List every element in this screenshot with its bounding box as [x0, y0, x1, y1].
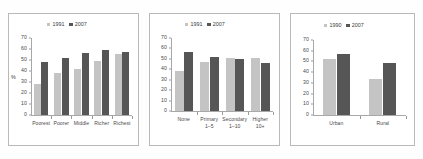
- bar: [226, 58, 235, 111]
- x-label-line1: Middle: [74, 120, 89, 126]
- legend-item: 1990: [324, 23, 341, 28]
- y-axis-tick-label: 60: [9, 46, 27, 51]
- y-axis-tick-mark: [29, 104, 32, 105]
- y-axis-title: %: [11, 75, 16, 80]
- bar: [251, 58, 260, 111]
- x-label-line1: Richer: [94, 120, 109, 126]
- y-axis-tick-mark: [311, 115, 314, 116]
- y-axis-tick-label: 70: [150, 35, 167, 40]
- bar: [74, 69, 81, 115]
- legend-item: 1991: [47, 22, 64, 27]
- y-axis-tick-mark: [311, 93, 314, 94]
- bar: [175, 71, 184, 111]
- y-axis-tick-label: 10: [9, 101, 27, 106]
- y-axis-tick-label: 50: [150, 56, 167, 61]
- y-axis-tick-mark: [169, 58, 172, 59]
- bar: [94, 61, 101, 115]
- y-axis-tick-label: 30: [150, 77, 167, 82]
- y-axis-line: [171, 38, 172, 112]
- x-axis-tick-mark: [222, 112, 223, 115]
- y-axis-tick-mark: [311, 61, 314, 62]
- x-label-line1: None: [178, 116, 190, 122]
- x-axis-tick-mark: [197, 112, 198, 115]
- bar: [115, 54, 122, 115]
- legend-swatch-icon: [185, 23, 188, 26]
- bar: [34, 84, 41, 115]
- legend-label: 1991: [52, 22, 64, 27]
- y-axis-tick-label: 40: [291, 70, 309, 75]
- y-axis-tick-mark: [311, 82, 314, 83]
- bar: [235, 59, 244, 111]
- y-axis-tick-label: 70: [291, 37, 309, 42]
- y-axis-tick-mark: [29, 49, 32, 50]
- bar: [62, 58, 69, 115]
- x-axis-tick-label: Secondary1–10: [222, 116, 248, 131]
- legend-item: 1991: [185, 22, 202, 27]
- legend-item: 2007: [207, 22, 224, 27]
- x-label-line2: 10+: [248, 123, 274, 130]
- bar: [200, 62, 209, 111]
- chart-panel-residence: 01020304050607019902007UrbanRural: [290, 13, 415, 146]
- bar: [184, 52, 193, 111]
- y-axis-tick-mark: [169, 79, 172, 80]
- y-axis-tick-label: 40: [150, 67, 167, 72]
- plot-area-1: 010203040506070%19912007PoorestPoorerMid…: [9, 14, 138, 145]
- x-label-line1: Poorer: [53, 120, 69, 126]
- legend-label: 1990: [329, 23, 341, 28]
- x-axis-tick-mark: [273, 112, 274, 115]
- bar: [261, 63, 270, 111]
- chart-panel-wealth: 010203040506070%19912007PoorestPoorerMid…: [8, 13, 139, 146]
- x-axis-tick-mark: [406, 116, 407, 119]
- bar: [337, 54, 350, 115]
- legend-item: 2007: [346, 23, 363, 28]
- x-label-line2: 1–5: [197, 123, 223, 130]
- x-axis-tick-label: Urban: [313, 120, 360, 127]
- plot-area-3: 01020304050607019902007UrbanRural: [291, 14, 414, 145]
- y-axis-tick-label: 0: [9, 112, 27, 117]
- y-axis-tick-label: 10: [150, 98, 167, 103]
- legend-swatch-icon: [346, 24, 349, 27]
- y-axis-tick-mark: [169, 48, 172, 49]
- chart-legend: 19902007: [324, 23, 364, 28]
- y-axis-tick-label: 0: [150, 108, 167, 113]
- bar: [41, 62, 48, 115]
- y-axis-tick-label: 30: [291, 80, 309, 85]
- y-axis-tick-label: 50: [9, 57, 27, 62]
- chart-legend: 19912007: [185, 22, 225, 27]
- bar: [369, 79, 382, 115]
- x-axis-tick-label: Rural: [360, 120, 407, 127]
- figure-container: 010203040506070%19912007PoorestPoorerMid…: [0, 0, 423, 159]
- plot-area-2: 01020304050607019912007NonePrimary1–5Sec…: [150, 14, 279, 145]
- y-axis-tick-mark: [311, 50, 314, 51]
- x-axis-tick-mark: [92, 116, 93, 119]
- x-axis-tick-label: None: [171, 116, 197, 123]
- x-label-line1: Poorest: [32, 120, 50, 126]
- y-axis-tick-label: 0: [291, 112, 309, 117]
- x-label-line1: Richest: [113, 120, 130, 126]
- y-axis-tick-mark: [29, 115, 32, 116]
- x-axis-tick-mark: [132, 116, 133, 119]
- legend-label: 2007: [213, 22, 225, 27]
- y-axis-line: [31, 38, 32, 116]
- bar: [383, 63, 396, 115]
- x-axis-tick-label: Richest: [112, 120, 132, 127]
- x-axis-tick-mark: [51, 116, 52, 119]
- chart-legend: 19912007: [47, 22, 87, 27]
- x-label-line1: Urban: [329, 120, 343, 126]
- y-axis-tick-mark: [169, 38, 172, 39]
- bar: [102, 50, 109, 115]
- y-axis-tick-mark: [29, 82, 32, 83]
- bar: [323, 59, 336, 115]
- y-axis-tick-label: 60: [291, 48, 309, 53]
- y-axis-tick-mark: [29, 71, 32, 72]
- y-axis-tick-mark: [169, 100, 172, 101]
- x-label-line1: Rural: [377, 120, 389, 126]
- bar: [210, 57, 219, 111]
- legend-swatch-icon: [69, 23, 72, 26]
- y-axis-tick-label: 70: [9, 35, 27, 40]
- y-axis-tick-mark: [169, 90, 172, 91]
- x-axis-line: [31, 115, 132, 116]
- x-label-line2: 1–10: [222, 123, 248, 130]
- y-axis-tick-mark: [169, 111, 172, 112]
- y-axis-tick-mark: [29, 38, 32, 39]
